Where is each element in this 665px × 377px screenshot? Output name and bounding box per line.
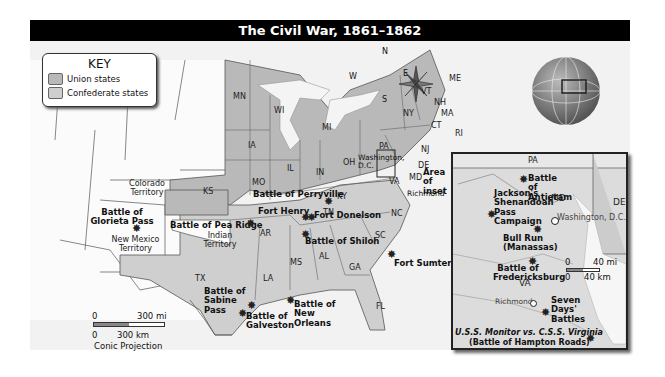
battle-glorieta-pass: Battle of Glorieta Pass [87, 208, 157, 227]
state-va: VA [389, 178, 399, 186]
battle-star-icon: ✸ [132, 224, 141, 233]
state-nj: NJ [421, 146, 429, 154]
scale-bar [93, 322, 165, 327]
key-item-confederate: Confederate states [48, 87, 156, 99]
scale-mi-zero: 0 [92, 312, 97, 321]
state-ri: RI [455, 130, 463, 138]
state-pa: PA [379, 143, 389, 151]
state-ks: KS [203, 188, 213, 196]
battle-star-icon: ✸ [387, 250, 396, 259]
state-mn: MN [233, 93, 246, 101]
state-ma: MA [441, 110, 453, 118]
inset-scale-mi-zero: 0 [565, 258, 570, 267]
state-nh: NH [434, 99, 446, 107]
territory-new-mexico: New Mexico Territory [108, 236, 163, 254]
richmond-capital-icon[interactable] [530, 300, 537, 307]
battle-star-icon: ✸ [324, 197, 333, 206]
compass-s: S [382, 96, 387, 104]
inset-battle-bull-run: Bull Run (Manassas) [503, 234, 543, 253]
state-ia: IA [248, 142, 256, 150]
inset-map: PA MD DE VA ✸ Battle of Antietam Jackson… [451, 152, 628, 350]
state-me: ME [449, 75, 461, 83]
inset-battle-seven-days: Seven Days' Battles [551, 296, 596, 324]
scale-mi: 300 mi [137, 312, 167, 321]
state-wi: WI [274, 107, 284, 115]
state-mi: MI [322, 124, 331, 132]
map-key: KEY Union states Confederate states [42, 53, 157, 107]
scale-km-zero: 0 [92, 331, 97, 340]
state-il: IL [287, 165, 294, 173]
state-la: LA [263, 275, 273, 283]
state-ct: CT [431, 122, 441, 130]
battle-star-icon: ✸ [286, 296, 295, 305]
state-fl: FL [376, 303, 385, 311]
battle-galveston: Battle of Galveston [246, 312, 288, 331]
state-ny: NY [403, 110, 414, 118]
globe-locator-icon [530, 55, 602, 127]
key-heading: KEY [43, 57, 156, 71]
state-ar: AR [260, 230, 271, 238]
inset-state-pa: PA [528, 157, 538, 165]
projection-label: Conic Projection [94, 342, 162, 351]
key-label-union: Union states [67, 74, 120, 84]
compass-rose-icon [395, 62, 437, 110]
inset-battle-fredericksburg: Battle of Fredericksburg [493, 264, 543, 283]
battle-shiloh: Battle of Shiloh [305, 237, 379, 246]
compass-n: N [382, 48, 388, 56]
key-label-confederate: Confederate states [67, 88, 148, 98]
inset-battle-shenandoah: Jackson's Shenandoah Pass Campaign [494, 189, 552, 226]
confederate-swatch [48, 87, 63, 99]
state-in: IN [316, 169, 324, 177]
inset-battle-hampton-roads: (Battle of Hampton Roads) [469, 339, 590, 348]
battle-star-icon: ✸ [541, 308, 550, 317]
inset-scale-mi: 40 mi [593, 258, 617, 267]
inset-city-washington: Washington, D.C. [557, 214, 626, 222]
battle-fort-donelson: Fort Donelson [314, 211, 381, 220]
state-mo: MO [252, 179, 265, 187]
state-al: AL [319, 253, 329, 261]
state-ms: MS [290, 259, 302, 267]
city-washington: Washington, D.C. [358, 154, 408, 171]
state-ga: GA [349, 264, 361, 272]
inset-city-richmond: Richmond [495, 298, 533, 306]
battle-fort-sumter: Fort Sumter [394, 259, 452, 268]
state-tx: TX [195, 275, 205, 283]
battle-star-icon: ✸ [246, 219, 255, 228]
battle-star-icon: ✸ [307, 213, 316, 222]
compass-w: W [349, 73, 357, 81]
battle-star-icon: ✸ [519, 175, 528, 184]
battle-star-icon: ✸ [238, 309, 247, 318]
inset-battle-hampton-roads-title: U.S.S. Monitor vs. C.S.S. Virginia [455, 329, 603, 338]
inset-scale-km: 40 km [584, 273, 611, 282]
scale-km: 300 km [117, 331, 149, 340]
battle-new-orleans: Battle of New Orleans [294, 300, 344, 328]
inset-scale-km-zero: 0 [565, 273, 570, 282]
territory-indian: Indian Territory [200, 232, 240, 250]
battle-star-icon: ✸ [301, 230, 310, 239]
state-md: MD [409, 174, 422, 182]
map-title: The Civil War, 1861–1862 [30, 20, 630, 41]
inset-state-de: DE [613, 198, 626, 207]
battle-star-icon: ✸ [247, 301, 256, 310]
key-item-union: Union states [48, 73, 156, 85]
state-nc: NC [391, 210, 403, 218]
compass-e: E [403, 70, 408, 78]
state-vt: VT [421, 88, 431, 96]
territory-colorado: Colorado Territory [122, 180, 172, 198]
battle-star-icon: ✸ [487, 210, 496, 219]
union-swatch [48, 73, 63, 85]
battle-star-icon: ✸ [586, 334, 595, 343]
state-oh: OH [343, 159, 355, 167]
